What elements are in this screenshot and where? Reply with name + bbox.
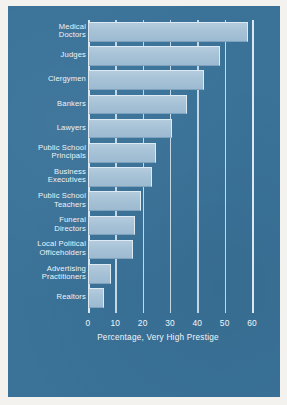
plot-area: MedicalDoctorsJudgesClergymenBankersLawy…	[8, 6, 280, 397]
category-label: Public SchoolTeachers	[38, 192, 86, 209]
category-label: Clergymen	[48, 75, 86, 84]
category-label-line: Judges	[61, 51, 86, 60]
bar	[89, 119, 172, 139]
category-label: AdvertisingPractitioners	[42, 265, 86, 282]
x-axis-title: Percentage, Very High Prestige	[8, 333, 280, 342]
category-label: Realtors	[57, 293, 86, 302]
grid-line-50	[225, 20, 226, 313]
category-label-line: Clergymen	[48, 75, 86, 84]
x-tick-label-20: 20	[131, 318, 155, 328]
bar	[89, 191, 141, 211]
category-label-line: Doctors	[59, 31, 86, 40]
category-label: Lawyers	[57, 124, 86, 133]
category-label: FuneralDirectors	[54, 216, 86, 233]
category-label-line: Bankers	[57, 100, 86, 109]
category-label-line: Teachers	[38, 201, 86, 210]
bar	[89, 95, 187, 115]
category-label: Local PoliticalOfficeholders	[37, 240, 86, 257]
x-tick-label-60: 60	[240, 318, 264, 328]
bar	[89, 22, 248, 42]
chart-page: MedicalDoctorsJudgesClergymenBankersLawy…	[0, 0, 287, 405]
chart-panel: MedicalDoctorsJudgesClergymenBankersLawy…	[8, 6, 280, 397]
category-label-line: Directors	[54, 225, 86, 234]
bar	[89, 216, 135, 236]
bar	[89, 143, 156, 163]
category-label-line: Executives	[48, 176, 86, 185]
x-tick-label-40: 40	[185, 318, 209, 328]
bar	[89, 264, 111, 284]
category-label: MedicalDoctors	[59, 23, 86, 40]
category-label-line: Practitioners	[42, 273, 86, 282]
category-label-line: Realtors	[57, 293, 86, 302]
bar	[89, 288, 104, 308]
bar	[89, 240, 133, 260]
category-label-line: Principals	[38, 152, 86, 161]
x-tick-label-30: 30	[158, 318, 182, 328]
category-label: BusinessExecutives	[48, 168, 86, 185]
x-tick-label-10: 10	[103, 318, 127, 328]
grid-line-60	[252, 20, 254, 313]
category-label: Public SchoolPrincipals	[38, 144, 86, 161]
x-tick-label-0: 0	[76, 318, 100, 328]
bar	[89, 167, 152, 187]
bar	[89, 70, 204, 90]
bar	[89, 46, 220, 66]
category-label-line: Lawyers	[57, 124, 86, 133]
category-label: Judges	[61, 51, 86, 60]
category-label-line: Officeholders	[37, 249, 86, 258]
category-label: Bankers	[57, 100, 86, 109]
x-tick-label-50: 50	[213, 318, 237, 328]
